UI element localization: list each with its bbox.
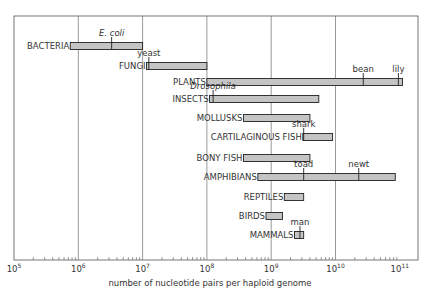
x-tick-label: 1010 xyxy=(326,262,345,274)
bar-fungi: FUNGIyeast xyxy=(119,48,207,71)
x-tick-label: 105 xyxy=(7,262,22,274)
range-bar xyxy=(284,194,303,201)
x-axis-label: number of nucleotide pairs per haploid g… xyxy=(108,278,311,288)
range-bar xyxy=(303,134,333,141)
x-tick-label: 1011 xyxy=(391,262,410,274)
bar-birds: BIRDS xyxy=(239,211,283,221)
category-label: REPTILES xyxy=(244,192,284,202)
range-bars: BACTERIAE. coliFUNGIyeastPLANTSbeanlilyI… xyxy=(27,28,404,240)
marker-label: Drosophila xyxy=(190,81,236,91)
marker-label: bean xyxy=(353,64,374,74)
marker-label: newt xyxy=(348,159,370,169)
marker-label: E. coli xyxy=(99,28,125,38)
x-axis-tick-labels: 10510610710810910101011 xyxy=(7,262,410,274)
category-label: FUNGI xyxy=(119,61,146,71)
bar-bony-fish: BONY FISH xyxy=(197,153,310,163)
category-label: BONY FISH xyxy=(197,153,243,163)
range-bar xyxy=(70,43,142,50)
minor-ticks xyxy=(33,257,397,260)
bar-bacteria: BACTERIAE. coli xyxy=(27,28,143,51)
x-tick-label: 109 xyxy=(264,262,279,274)
x-tick-label: 108 xyxy=(200,262,215,274)
x-tick-label: 106 xyxy=(71,262,86,274)
range-bar xyxy=(266,213,283,220)
range-bar xyxy=(210,96,319,103)
marker-label: lily xyxy=(392,64,404,74)
range-bar xyxy=(207,79,403,86)
category-label: BACTERIA xyxy=(27,41,69,51)
bar-reptiles: REPTILES xyxy=(244,192,304,202)
x-tick-label: 107 xyxy=(135,262,150,274)
marker-label: man xyxy=(291,217,310,227)
marker-label: yeast xyxy=(137,48,161,58)
range-bar xyxy=(294,232,303,239)
category-label: MOLLUSKS xyxy=(197,113,243,123)
marker-label: shark xyxy=(292,119,316,129)
range-bar xyxy=(147,63,207,70)
category-label: MAMMALS xyxy=(250,230,294,240)
category-label: CARTILAGINOUS FISH xyxy=(211,132,302,142)
category-label: INSECTS xyxy=(172,94,208,104)
category-label: AMPHIBIANS xyxy=(204,172,257,182)
marker-label: toad xyxy=(294,159,313,169)
category-label: BIRDS xyxy=(239,211,265,221)
range-bar xyxy=(258,174,395,181)
genome-size-chart: BACTERIAE. coliFUNGIyeastPLANTSbeanlilyI… xyxy=(0,0,430,295)
